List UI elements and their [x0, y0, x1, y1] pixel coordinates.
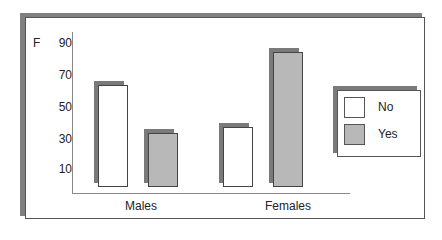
x-axis — [72, 193, 350, 194]
bar-females-no — [223, 127, 253, 187]
x-label-females: Females — [248, 199, 328, 213]
legend: No Yes — [337, 90, 421, 157]
legend-label-no: No — [378, 100, 393, 114]
legend-swatch-no — [344, 97, 365, 118]
y-axis-label: F — [33, 36, 40, 50]
y-tick-10: 10 — [52, 163, 72, 175]
legend-swatch-yes — [344, 124, 365, 145]
bar-males-yes — [148, 133, 178, 187]
y-tick-30: 30 — [52, 133, 72, 145]
y-axis — [72, 32, 73, 193]
y-tick-50: 50 — [52, 101, 72, 113]
x-label-males: Males — [101, 199, 181, 213]
y-tick-70: 70 — [52, 69, 72, 81]
y-tick-90: 90 — [52, 37, 72, 49]
legend-label-yes: Yes — [378, 127, 398, 141]
bar-females-yes — [273, 52, 303, 187]
bar-males-no — [98, 85, 128, 187]
